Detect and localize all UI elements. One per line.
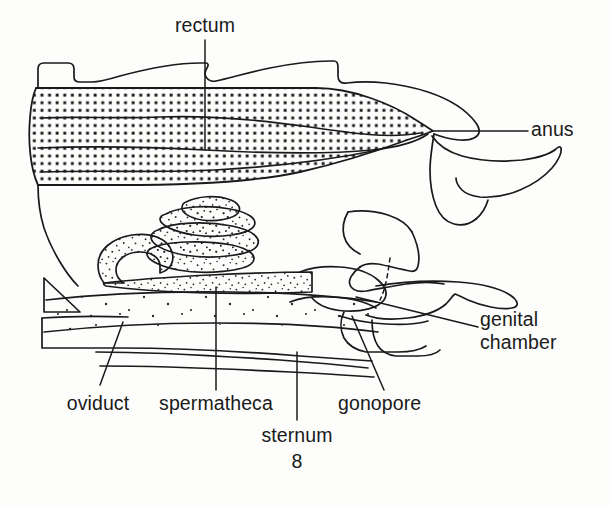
- label-sternum-line1: sternum: [246, 424, 348, 447]
- figure-page: rectum anus genital chamber gonopore ste…: [0, 0, 611, 506]
- anal-lobe-tip: [476, 200, 488, 219]
- label-sternum-line2: 8: [246, 450, 348, 473]
- label-oviduct: oviduct: [53, 392, 143, 415]
- leader-oviduct: [100, 322, 123, 385]
- label-anus: anus: [531, 118, 574, 141]
- label-rectum: rectum: [155, 14, 255, 37]
- label-spermatheca: spermatheca: [151, 392, 281, 415]
- rectum-shape: [29, 88, 433, 185]
- genital-chamber-upper-wall: [348, 211, 412, 232]
- genital-chamber-lobe: [349, 267, 444, 291]
- spermatheca-duct: [104, 272, 312, 293]
- gonopore-valve-right: [372, 320, 440, 356]
- anal-lobe-lower: [432, 136, 561, 197]
- label-genital-chamber-line1: genital: [480, 308, 538, 331]
- body-wall-left: [38, 185, 78, 286]
- spermatheca-hook: [98, 234, 173, 283]
- sternum-band-lower2: [100, 366, 374, 377]
- label-genital-chamber-line2: chamber: [480, 331, 557, 354]
- anal-lobe-upper: [430, 134, 476, 225]
- posterior-membrane: [343, 212, 360, 254]
- label-gonopore: gonopore: [338, 392, 421, 415]
